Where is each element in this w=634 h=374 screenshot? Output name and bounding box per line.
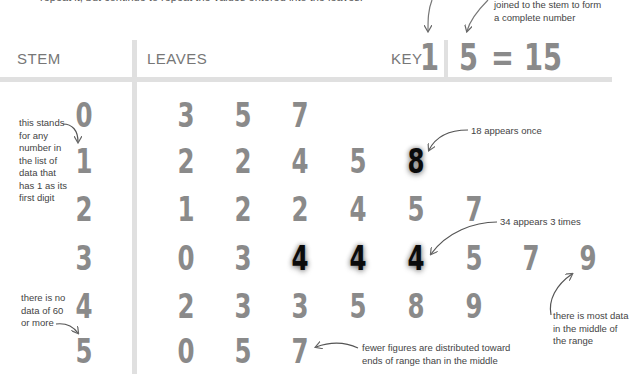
arrow-icon <box>467 0 488 31</box>
arrow-icon <box>63 124 78 142</box>
arrow-icon <box>431 222 497 254</box>
arrow-icon <box>550 274 572 315</box>
arrow-icon <box>428 0 432 31</box>
arrow-icon <box>429 130 468 150</box>
annotation-arrows <box>0 0 634 374</box>
arrow-icon <box>56 324 78 333</box>
arrow-icon <box>316 343 358 348</box>
